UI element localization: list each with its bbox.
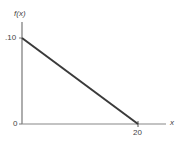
x-tick-label-20: 20 [133, 129, 142, 137]
y-axis-label: f(x) [14, 10, 26, 18]
y-tick-label-top: .10 [5, 34, 16, 42]
chart: f(x) .10 0 20 x [0, 0, 180, 143]
x-axis-label: x [170, 119, 174, 127]
y-tick-label-zero: 0 [13, 120, 17, 128]
plot-area [0, 0, 180, 143]
data-line [22, 38, 138, 124]
